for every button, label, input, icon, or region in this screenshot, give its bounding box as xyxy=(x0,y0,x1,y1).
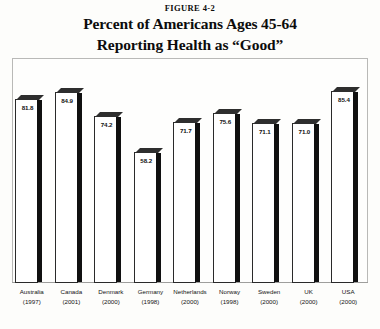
category-year: (1998) xyxy=(208,297,252,307)
bar-germany: 58.2 xyxy=(134,152,157,283)
figure-number: FIGURE 4-2 xyxy=(0,3,380,13)
bar-value-label: 85.4 xyxy=(332,96,355,103)
bar-netherlands: 71.7 xyxy=(173,122,196,283)
bar-side-face xyxy=(235,114,240,282)
category-name: Germany xyxy=(128,287,172,297)
chart-title-line-2: Reporting Health as “Good” xyxy=(0,35,380,56)
category-label-uk: UK(2000) xyxy=(287,287,331,306)
category-label-norway: Norway(1998) xyxy=(208,287,252,306)
bar-top-face xyxy=(214,109,242,114)
bar-sweden: 71.1 xyxy=(252,123,275,283)
bar-side-face xyxy=(156,153,161,282)
category-year: (1998) xyxy=(128,297,172,307)
bar-value-label: 81.8 xyxy=(16,104,39,111)
category-label-canada: Canada(2001) xyxy=(49,287,93,306)
bar-australia: 81.8 xyxy=(15,99,38,283)
category-label-sweden: Sweden(2000) xyxy=(247,287,291,306)
bar-top-face xyxy=(174,118,202,123)
category-axis: Australia(1997)Canada(2001)Denmark(2000)… xyxy=(12,287,368,327)
bar-usa: 85.4 xyxy=(331,91,354,283)
category-name: Netherlands xyxy=(168,287,212,297)
category-name: Australia xyxy=(10,287,54,297)
bar-value-label: 71.7 xyxy=(174,127,197,134)
category-name: Denmark xyxy=(89,287,133,297)
bar-group: 81.884.974.258.271.775.671.171.085.4 xyxy=(12,58,368,283)
bar-value-label: 58.2 xyxy=(135,157,158,164)
bar-side-face xyxy=(274,124,279,282)
category-year: (2000) xyxy=(326,297,370,307)
bar-value-label: 71.1 xyxy=(253,128,276,135)
category-year: (1997) xyxy=(10,297,54,307)
category-name: Norway xyxy=(208,287,252,297)
bar-side-face xyxy=(195,123,200,282)
category-year: (2000) xyxy=(168,297,212,307)
category-label-netherlands: Netherlands(2000) xyxy=(168,287,212,306)
category-name: Sweden xyxy=(247,287,291,297)
category-label-australia: Australia(1997) xyxy=(10,287,54,306)
bar-side-face xyxy=(353,92,358,282)
bar-value-label: 84.9 xyxy=(56,97,79,104)
figure-container: FIGURE 4-2 Percent of Americans Ages 45-… xyxy=(0,0,380,329)
chart-title-line-1: Percent of Americans Ages 45-64 xyxy=(0,14,380,35)
category-year: (2000) xyxy=(89,297,133,307)
category-name: USA xyxy=(326,287,370,297)
bar-top-face xyxy=(56,88,84,93)
bar-side-face xyxy=(77,93,82,282)
bar-norway: 75.6 xyxy=(213,113,236,283)
bar-denmark: 74.2 xyxy=(94,116,117,283)
bar-value-label: 74.2 xyxy=(95,121,118,128)
bar-uk: 71.0 xyxy=(292,123,315,283)
category-name: Canada xyxy=(49,287,93,297)
category-year: (2000) xyxy=(247,297,291,307)
category-label-germany: Germany(1998) xyxy=(128,287,172,306)
bar-side-face xyxy=(116,117,121,282)
bar-value-label: 71.0 xyxy=(293,128,316,135)
category-year: (2001) xyxy=(49,297,93,307)
category-year: (2000) xyxy=(287,297,331,307)
category-label-denmark: Denmark(2000) xyxy=(89,287,133,306)
category-name: UK xyxy=(287,287,331,297)
bar-side-face xyxy=(314,124,319,282)
category-label-usa: USA(2000) xyxy=(326,287,370,306)
bar-value-label: 75.6 xyxy=(214,118,237,125)
bar-top-face xyxy=(135,148,163,153)
bar-canada: 84.9 xyxy=(55,92,78,283)
bar-side-face xyxy=(37,100,42,282)
chart-title: Percent of Americans Ages 45-64 Reportin… xyxy=(0,14,380,55)
